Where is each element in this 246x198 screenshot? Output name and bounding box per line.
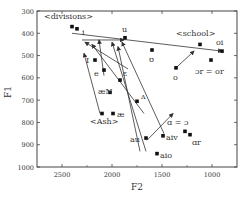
- point-label: aiv: [166, 133, 178, 142]
- y-tick-label: 500: [22, 52, 34, 60]
- data-point: [188, 133, 192, 137]
- point-label: <divisions>: [44, 12, 93, 21]
- point-label: ɑ = ɔ: [167, 118, 189, 127]
- y-tick-label: 300: [22, 8, 34, 16]
- data-point: [161, 134, 165, 138]
- data-point: [220, 49, 224, 53]
- point-label: ʊ: [149, 55, 154, 64]
- x-axis-label: F2: [131, 182, 143, 192]
- data-point: [102, 68, 106, 72]
- data-point: [183, 130, 187, 134]
- point-label: ʌ: [140, 92, 146, 101]
- arrow: [122, 42, 164, 133]
- data-point: [93, 58, 97, 62]
- y-tick-label: 800: [22, 119, 34, 127]
- x-tick-label: 2500: [54, 171, 71, 179]
- data-point: [100, 112, 104, 116]
- point-label: e: [94, 69, 99, 78]
- arrow: [92, 44, 144, 113]
- point-label: au: [130, 135, 140, 144]
- data-point: [155, 152, 159, 156]
- point-label: æN: [98, 87, 113, 96]
- data-point: [144, 136, 148, 140]
- point-label: <Ash>: [90, 117, 118, 126]
- data-point: [209, 58, 213, 62]
- points-layer: <divisions>iuIeεæNʌ<Ash>æauaivaioʊo<scho…: [44, 12, 224, 160]
- x-tick-label: 1000: [204, 171, 221, 179]
- point-label: i: [82, 28, 85, 37]
- point-label: u: [122, 25, 127, 34]
- point-label: æ: [117, 110, 125, 119]
- data-point: [198, 43, 202, 47]
- x-tick-label: 2000: [104, 171, 121, 179]
- point-label: oi: [216, 38, 224, 47]
- data-point: [135, 99, 139, 103]
- data-point: [123, 36, 127, 40]
- point-label: I: [86, 56, 89, 65]
- y-tick-label: 700: [22, 97, 34, 105]
- arrows-layer: [72, 33, 222, 151]
- formant-chart: 3004005006007008009001000 25002000150010…: [0, 0, 246, 198]
- data-point: [70, 25, 74, 29]
- data-point: [75, 27, 79, 31]
- y-tick-label: 600: [22, 74, 34, 82]
- data-point: [118, 78, 122, 82]
- arrow: [176, 51, 194, 68]
- point-label: aio: [160, 151, 172, 160]
- data-point: [174, 66, 178, 70]
- y-axis-label: F1: [3, 86, 13, 98]
- y-tick-label: 400: [22, 30, 34, 38]
- x-tick-label: 1500: [154, 171, 171, 179]
- data-point: [150, 48, 154, 52]
- point-label: ɑr: [192, 138, 201, 147]
- point-label: ε: [123, 69, 127, 78]
- point-label: <school>: [176, 29, 215, 38]
- point-label: ɔr = or: [195, 67, 224, 76]
- point-label: o: [173, 73, 178, 82]
- y-tick-label: 1000: [17, 164, 34, 172]
- data-point: [111, 112, 115, 116]
- y-tick-label: 900: [22, 141, 34, 149]
